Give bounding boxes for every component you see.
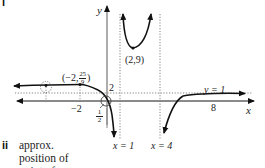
note-line-2: position of xyxy=(19,152,69,165)
curve-left-branch xyxy=(14,85,98,91)
tick-label-neg2: −2 xyxy=(71,104,82,114)
asymptote-label-x-4: x = 4 xyxy=(151,141,172,151)
note-line-1: approx. xyxy=(19,139,69,152)
point-label-neg2-frac: 25 9 xyxy=(79,71,86,85)
point-label-neg2: (−2, 25 9 ) xyxy=(62,71,90,85)
asymptote-label-y-1: y = 1 xyxy=(204,85,225,95)
part-ii-label: ii xyxy=(2,139,8,151)
tick-label-y-half: 1 2 xyxy=(96,109,103,124)
note-line-3: point of xyxy=(19,165,69,168)
point-label-neg2-main: (−2, xyxy=(62,73,78,83)
point-local-min xyxy=(131,46,134,49)
y-axis-label: y xyxy=(97,5,102,16)
point-label-local-min: (2,9) xyxy=(125,55,144,65)
curve-middle-branch-right xyxy=(133,14,151,48)
part-i-label: i xyxy=(2,0,5,8)
inflection-note: approx. position of point of xyxy=(19,139,69,168)
asymptote-label-x-1: x = 1 xyxy=(113,141,134,151)
point-left-marker xyxy=(45,84,48,87)
curve-middle-branch-left xyxy=(123,14,133,48)
tick-label-8: 8 xyxy=(211,103,216,113)
point-label-neg2-close: ) xyxy=(87,73,90,83)
half-denominator: 2 xyxy=(96,117,103,124)
x-axis-label: x xyxy=(246,105,251,116)
tick-label-y-2: 2 xyxy=(109,83,114,93)
frac-denominator: 9 xyxy=(79,79,86,86)
